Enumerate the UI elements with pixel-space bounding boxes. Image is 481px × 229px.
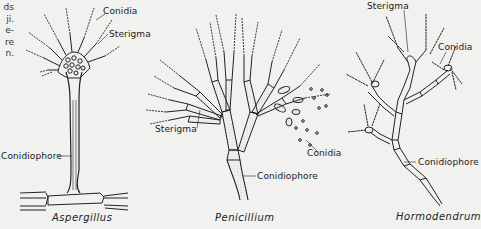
- penicillium-conidiophore-label: Conidiophore: [257, 171, 318, 181]
- hormodendrum-sterigma-label: Sterigma: [367, 1, 409, 11]
- hormodendrum-conidiophore-label: Conidiophore: [418, 157, 479, 167]
- aspergillus-sterigma-label: Sterigma: [109, 29, 151, 39]
- aspergillus-caption: Aspergillus: [52, 212, 112, 223]
- aspergillus-conidiophore-label: Conidiophore: [1, 151, 62, 161]
- hormodendrum-conidia-label: Conidia: [438, 42, 472, 52]
- hormodendrum-caption: Hormodendrum: [396, 211, 481, 222]
- penicillium-conidia-label: Conidia: [307, 148, 341, 158]
- penicillium-caption: Penicillium: [215, 212, 275, 223]
- hormodendrum-drawing: [346, 10, 462, 206]
- aspergillus-conidia-label: Conidia: [103, 6, 137, 16]
- penicillium-sterigma-label: Sterigma: [155, 124, 197, 134]
